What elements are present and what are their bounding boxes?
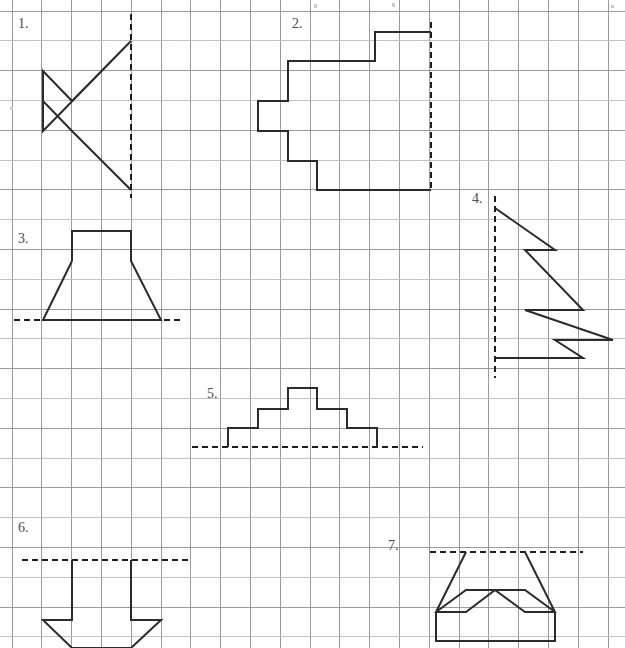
figure-4-shape	[495, 208, 613, 358]
figure-6	[22, 560, 190, 648]
figure-7-label: 7.	[388, 538, 399, 553]
grid-lines	[0, 0, 625, 648]
figure-3-shape	[43, 231, 161, 320]
figure-4-label: 4.	[472, 191, 483, 206]
figure-2-label: 2.	[292, 16, 303, 31]
figure-1-shape	[43, 41, 131, 131]
figure-1-label: 1.	[18, 16, 29, 31]
figures-layer	[14, 14, 613, 648]
figure-4	[495, 196, 613, 378]
figure-6-shape	[43, 560, 161, 648]
figure-3-label: 3.	[18, 231, 29, 246]
figure-7-shape-part-0	[436, 552, 495, 612]
figure-2-shape	[258, 32, 431, 190]
page-speck	[392, 3, 395, 7]
figure-7	[430, 552, 583, 641]
figure-2	[258, 22, 431, 192]
figure-7-shape-part-1	[495, 552, 555, 612]
figure-1	[43, 14, 131, 198]
figure-3	[14, 231, 181, 320]
page-specks	[10, 3, 614, 110]
figure-5	[192, 388, 423, 447]
grid-canvas: 1.2.3.4.5.6.7.	[0, 0, 625, 648]
page-speck	[10, 107, 13, 110]
worksheet-page: 1.2.3.4.5.6.7.	[0, 0, 625, 648]
figure-5-label: 5.	[207, 386, 218, 401]
figure-6-label: 6.	[18, 520, 29, 535]
page-speck	[314, 4, 317, 8]
page-speck	[611, 5, 614, 8]
figure-1-shape-extra	[43, 101, 131, 190]
